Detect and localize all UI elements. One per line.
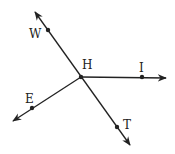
diagram-lines [0, 0, 175, 154]
geometry-diagram: H W I E T [0, 0, 175, 154]
point-t-dot [115, 125, 119, 129]
label-w: W [29, 28, 41, 40]
label-i: I [139, 62, 144, 74]
point-w-dot [46, 28, 50, 32]
label-t: T [123, 119, 131, 131]
point-e-dot [30, 106, 34, 110]
label-e: E [25, 93, 34, 105]
ray-h-i [81, 77, 166, 78]
ray-h-e [13, 77, 81, 121]
point-h-dot [79, 75, 83, 79]
label-h: H [82, 59, 92, 71]
point-i-dot [140, 75, 144, 79]
